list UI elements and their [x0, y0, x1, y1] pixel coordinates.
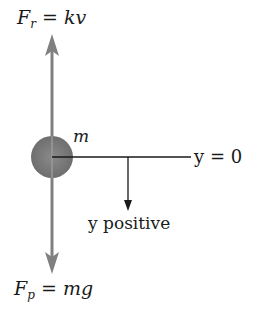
mass-label: m — [73, 126, 89, 146]
positive-direction-arrow-icon — [124, 200, 132, 211]
downward-force-label: Fp = mg — [14, 277, 93, 299]
upward-force-label: Fr = kv — [17, 6, 86, 28]
direction-label: y positive — [88, 213, 170, 233]
free-body-diagram: Fr = kv m y = 0 y positive Fp = mg — [0, 0, 270, 326]
reference-line-label: y = 0 — [194, 146, 242, 167]
